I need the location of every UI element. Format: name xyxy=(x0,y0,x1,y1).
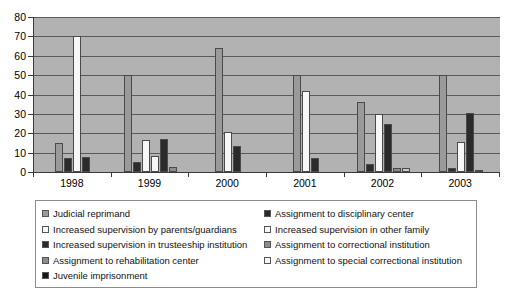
legend-swatch-icon xyxy=(42,226,49,233)
bar xyxy=(215,48,223,172)
x-axis-labels: 199819992000200120022003 xyxy=(33,177,499,193)
bar xyxy=(311,158,319,172)
bar xyxy=(293,75,301,172)
x-tick-mark xyxy=(499,172,500,177)
legend-swatch-icon xyxy=(42,210,49,217)
legend-label: Assignment to correctional institution xyxy=(275,239,430,250)
bar-group xyxy=(189,17,267,172)
y-tick-label: 20 xyxy=(14,128,26,138)
legend-label: Assignment to special correctional insti… xyxy=(275,255,462,266)
bar xyxy=(466,113,474,172)
chart-legend: Judicial reprimandIncreased supervision … xyxy=(35,200,477,288)
y-tick-label: 60 xyxy=(14,51,26,61)
bar-group xyxy=(345,17,423,172)
legend-swatch-icon xyxy=(264,226,271,233)
legend-label: Increased supervision by parents/guardia… xyxy=(53,224,237,235)
bar xyxy=(142,140,150,172)
legend-label: Assignment to disciplinary center xyxy=(275,208,414,219)
chart-screenshot: 80706050403020100 1998199920002001200220… xyxy=(0,0,512,300)
bar xyxy=(357,102,365,172)
legend-item[interactable]: Assignment to rehabilitation center xyxy=(42,253,262,269)
legend-swatch-icon xyxy=(264,241,271,248)
bar xyxy=(439,75,447,172)
legend-item[interactable]: Assignment to disciplinary center xyxy=(264,206,476,222)
bar xyxy=(55,143,63,172)
legend-item[interactable]: Juvenile imprisonment xyxy=(42,268,262,284)
x-tick-label: 2000 xyxy=(197,177,257,190)
bar-group xyxy=(267,17,345,172)
bar xyxy=(457,142,465,172)
y-tick-label: 50 xyxy=(14,70,26,80)
legend-label: Assignment to rehabilitation center xyxy=(53,255,199,266)
bar xyxy=(124,75,132,172)
legend-label: Increased supervision in trusteeship ins… xyxy=(53,239,247,250)
x-tick-label: 2003 xyxy=(430,177,490,190)
y-tick-label: 80 xyxy=(14,12,26,22)
legend-swatch-icon xyxy=(264,257,271,264)
legend-item[interactable]: Increased supervision by parents/guardia… xyxy=(42,222,262,238)
x-tick-label: 1998 xyxy=(42,177,102,190)
legend-swatch-icon xyxy=(42,272,49,279)
y-tick-label: 30 xyxy=(14,109,26,119)
bar-group xyxy=(422,17,500,172)
bar xyxy=(224,132,232,172)
y-tick-label: 70 xyxy=(14,31,26,41)
legend-label: Increased supervision in other family xyxy=(275,224,429,235)
legend-swatch-icon xyxy=(42,257,49,264)
plot-area xyxy=(33,17,500,173)
legend-label: Judicial reprimand xyxy=(53,208,130,219)
legend-item[interactable]: Judicial reprimand xyxy=(42,206,262,222)
bar xyxy=(384,124,392,172)
bar xyxy=(64,158,72,172)
bar xyxy=(375,114,383,172)
bar xyxy=(133,162,141,172)
y-tick-label: 10 xyxy=(14,148,26,158)
bar xyxy=(160,139,168,172)
legend-item[interactable]: Assignment to special correctional insti… xyxy=(264,253,476,269)
legend-item[interactable]: Assignment to correctional institution xyxy=(264,237,476,253)
legend-item[interactable]: Increased supervision in trusteeship ins… xyxy=(42,237,262,253)
bar xyxy=(366,164,374,172)
y-tick-label: 0 xyxy=(20,167,26,177)
bar xyxy=(151,156,159,172)
y-axis-labels: 80706050403020100 xyxy=(0,0,31,180)
x-tick-label: 2002 xyxy=(353,177,413,190)
bar xyxy=(82,157,90,173)
legend-swatch-icon xyxy=(42,241,49,248)
legend-swatch-icon xyxy=(264,210,271,217)
y-tick-label: 40 xyxy=(14,90,26,100)
bar-group xyxy=(112,17,190,172)
legend-label: Juvenile imprisonment xyxy=(53,270,148,281)
bar-chart: 80706050403020100 1998199920002001200220… xyxy=(0,0,512,196)
bar-groups xyxy=(34,17,500,172)
bar xyxy=(302,91,310,172)
legend-item[interactable]: Increased supervision in other family xyxy=(264,222,476,238)
bar-group xyxy=(34,17,112,172)
bar xyxy=(233,146,241,172)
legend-column-right: Assignment to disciplinary centerIncreas… xyxy=(264,206,476,268)
legend-column-left: Judicial reprimandIncreased supervision … xyxy=(42,206,262,284)
x-tick-label: 1999 xyxy=(120,177,180,190)
bar xyxy=(73,36,81,172)
x-tick-label: 2001 xyxy=(275,177,335,190)
